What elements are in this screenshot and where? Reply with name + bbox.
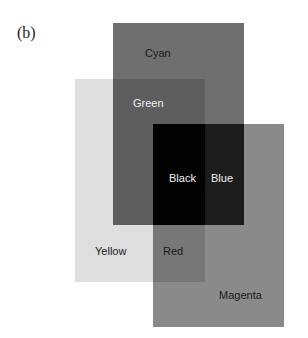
label-red: Red	[163, 245, 183, 257]
label-magenta: Magenta	[219, 289, 262, 301]
label-cyan: Cyan	[145, 47, 171, 59]
panel-label: (b)	[17, 24, 36, 42]
region-cyan-right	[205, 79, 244, 124]
region-cyan	[113, 23, 244, 79]
label-yellow: Yellow	[95, 245, 126, 257]
label-green: Green	[133, 97, 164, 109]
label-black: Black	[169, 172, 196, 184]
label-blue: Blue	[211, 172, 233, 184]
region-green-lower	[113, 124, 153, 225]
